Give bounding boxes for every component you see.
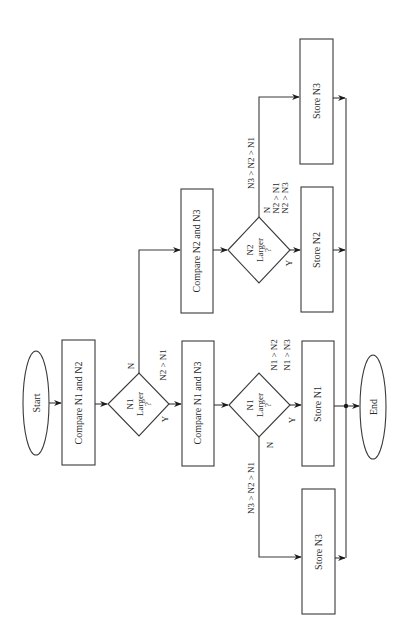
store-n3-bottom-node: Store N3	[302, 489, 335, 614]
d3-no-cond-label: N3 > N2 > N1	[246, 462, 256, 514]
start-label: Start	[31, 393, 42, 412]
decision2-line3: ?	[263, 248, 273, 252]
end-label: End	[368, 399, 379, 415]
d2-no-cond-label: N3 > N2 > N1	[246, 137, 256, 189]
compare-n2-n3-node: Compare N2 and N3	[181, 189, 213, 313]
junction-dot	[344, 404, 348, 408]
decision3-line3: ?	[263, 403, 273, 407]
compare-n1-n2-node: Compare N1 and N2	[62, 340, 95, 465]
d1-yes-label: Y	[160, 415, 170, 422]
decision2-node: N2 Larger ?	[228, 217, 290, 283]
d3-yes-label: Y	[287, 416, 297, 423]
store-n1-node: Store N1	[302, 341, 334, 466]
start-node: Start	[23, 351, 49, 455]
decision1-line1: N1	[125, 399, 135, 410]
compare-n2-n3-label: Compare N2 and N3	[191, 209, 202, 292]
d2-yes-label: Y	[284, 259, 294, 266]
flowchart: Start Compare N1 and N2 N1 Larger ? N N2…	[0, 0, 405, 637]
end-node: End	[360, 355, 386, 459]
compare-n1-n3-label: Compare N1 and N3	[192, 361, 203, 444]
compare-n1-n2-label: Compare N1 and N2	[73, 361, 84, 444]
store-n1-label: Store N1	[312, 386, 323, 422]
decision2-line1: N2	[245, 245, 255, 256]
decision1-line3: ?	[143, 402, 153, 406]
d3-yes-cond1-label: N1 > N2	[269, 339, 279, 371]
decision3-node: N1 Larger ?	[229, 373, 290, 437]
d3-no-label: N	[265, 441, 275, 448]
store-n3-bottom-label: Store N3	[313, 534, 324, 570]
d3-yes-cond2-label: N1 > N3	[282, 339, 292, 371]
store-n3-top-node: Store N3	[300, 39, 333, 164]
d1-cond-label: N2 > N1	[158, 349, 168, 381]
d2-yes-cond2-label: N2 > N3	[280, 182, 290, 214]
store-n3-top-label: Store N3	[311, 83, 322, 119]
store-n2-node: Store N2	[301, 187, 333, 312]
decision3-line1: N1	[245, 400, 255, 411]
arrow-decision3-no	[259, 437, 301, 557]
d1-no-label: N	[126, 362, 136, 369]
decision1-node: N1 Larger ?	[108, 373, 169, 436]
compare-n1-n3-node: Compare N1 and N3	[182, 341, 214, 466]
store-n2-label: Store N2	[311, 232, 322, 268]
